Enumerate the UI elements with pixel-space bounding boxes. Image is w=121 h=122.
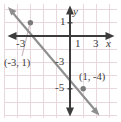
x-tick-label-3: 3 [93, 38, 99, 49]
y-axis-name-label: y [73, 6, 78, 17]
y-tick-label-1: 1 [60, 16, 66, 27]
x-tick-label-1: 1 [75, 38, 81, 49]
x-axis-name-label: x [106, 38, 111, 49]
point-label-a: (-3, 1) [4, 58, 30, 69]
y-tick-label-minus5: -5 [55, 82, 64, 93]
x-tick-label-minus3: -3 [16, 38, 25, 49]
coordinate-plane-figure: -3 1 3 x 1 -3 -5 y (-3, 1) (1, -4) [0, 0, 121, 122]
point-label-b: (1, -4) [79, 72, 105, 83]
y-tick-label-minus3: -3 [55, 56, 64, 67]
